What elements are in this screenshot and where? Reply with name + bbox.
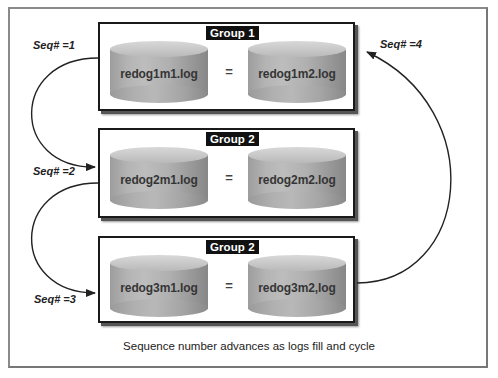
log-member-cylinder: redog1m2.log — [248, 41, 346, 103]
group-label: Group 2 — [206, 132, 259, 146]
log-member-label: redog1m2.log — [248, 67, 346, 81]
redo-log-group-2: Group 2 redog2m1.log = redog2m2.log — [98, 128, 355, 218]
log-member-cylinder: redog1m1.log — [110, 41, 208, 103]
sequence-label-3: Seq# =3 — [34, 293, 76, 305]
log-member-cylinder: redog3m1.log — [110, 255, 208, 317]
diagram-caption: Sequence number advances as logs fill an… — [0, 340, 498, 352]
redo-log-group-3: Group 2 redog3m1.log = redog3m2,log — [98, 236, 355, 323]
group-label: Group 2 — [206, 240, 259, 254]
group-label: Group 1 — [206, 26, 259, 40]
equals-sign: = — [223, 64, 235, 79]
log-member-label: redog3m1.log — [110, 281, 208, 295]
equals-sign: = — [223, 278, 235, 293]
log-member-cylinder: redog2m1.log — [110, 147, 208, 209]
log-member-label: redog2m2.log — [248, 173, 346, 187]
equals-sign: = — [223, 170, 235, 185]
sequence-label-2: Seq# =2 — [33, 165, 75, 177]
log-member-label: redog1m1.log — [110, 67, 208, 81]
log-member-cylinder: redog2m2.log — [248, 147, 346, 209]
log-member-label: redog2m1.log — [110, 173, 208, 187]
sequence-label-1: Seq# =1 — [33, 39, 75, 51]
sequence-label-4: Seq# =4 — [380, 38, 422, 50]
log-member-label: redog3m2,log — [248, 281, 346, 295]
log-member-cylinder: redog3m2,log — [248, 255, 346, 317]
redo-log-group-1: Group 1 redog1m1.log = redog1m2.log — [98, 22, 355, 111]
